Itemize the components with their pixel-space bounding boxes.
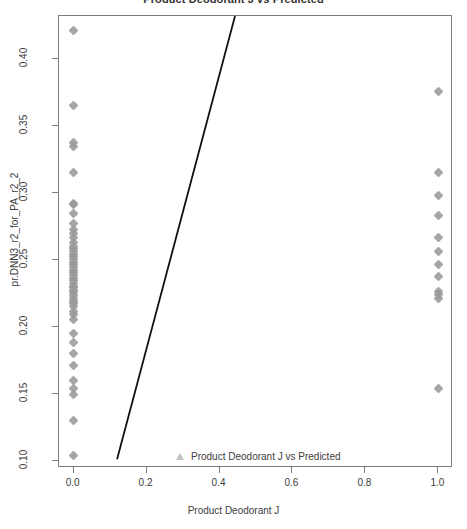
x-tick-label: 0.0 [53,477,93,488]
x-tick-label: 0.8 [344,477,384,488]
y-tick-label: 0.15 [18,370,29,416]
x-tick-label: 1.0 [417,477,457,488]
y-tick-mark [52,393,58,394]
y-tick-mark [52,259,58,260]
x-tick-mark [219,467,220,473]
y-tick-mark [52,58,58,59]
y-axis-title: pr.DNN3_r2_for_PA_r2_2 [9,130,20,330]
x-tick-mark [146,467,147,473]
x-tick-label: 0.4 [199,477,239,488]
y-tick-mark [52,326,58,327]
x-tick-mark [73,467,74,473]
y-tick-label: 0.40 [18,34,29,80]
legend-marker-triangle-icon [176,453,184,460]
y-tick-mark [52,192,58,193]
chart-title: Product Deodorant J vs Predicted [0,0,467,5]
plot-area [58,15,452,467]
x-tick-label: 0.6 [271,477,311,488]
x-tick-mark [291,467,292,473]
x-tick-label: 0.2 [126,477,166,488]
x-tick-mark [437,467,438,473]
x-tick-mark [364,467,365,473]
y-tick-mark [52,460,58,461]
plot-canvas [59,16,451,466]
chart-figure: Product Deodorant J vs Predicted 0.100.1… [0,0,467,529]
legend-label: Product Deodorant J vs Predicted [191,451,341,462]
y-tick-label: 0.10 [18,437,29,483]
regression-line [117,16,235,459]
y-tick-mark [52,125,58,126]
x-axis-title: Product Deodorant J [0,505,467,516]
legend: Product Deodorant J vs Predicted [176,451,341,462]
